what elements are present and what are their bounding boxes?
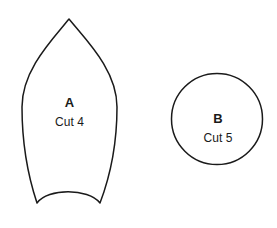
piece-a-label: A Cut 4 — [22, 95, 117, 130]
piece-b-letter: B — [172, 111, 264, 126]
piece-b-label: B Cut 5 — [172, 111, 264, 146]
piece-a-letter: A — [22, 95, 117, 110]
pattern-canvas: A Cut 4 B Cut 5 — [0, 0, 277, 228]
piece-b-cut-count: Cut 5 — [172, 131, 264, 146]
piece-a-cut-count: Cut 4 — [22, 115, 117, 130]
